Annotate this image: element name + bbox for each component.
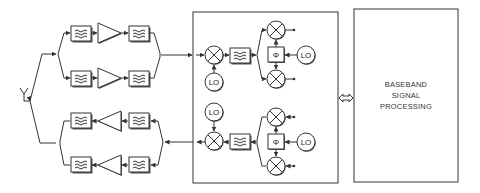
lo-label: LO bbox=[301, 51, 312, 60]
mixer-icon bbox=[267, 21, 286, 40]
amplifier-icon bbox=[98, 111, 122, 132]
bandpass-filter-icon bbox=[129, 113, 151, 130]
bandpass-filter-icon bbox=[129, 26, 151, 43]
mixer-icon bbox=[267, 70, 286, 89]
antenna-feed-lines bbox=[30, 54, 56, 143]
mixer-icon bbox=[267, 157, 286, 176]
baseband-label-line-2: SIGNAL bbox=[392, 91, 421, 100]
antenna-icon bbox=[20, 88, 30, 101]
bandpass-filter-icon bbox=[129, 157, 151, 174]
mixer-icon bbox=[205, 132, 224, 151]
bidirectional-bus-arrow bbox=[339, 94, 353, 102]
mixer-icon bbox=[267, 108, 286, 127]
phase-label: Φ bbox=[273, 51, 279, 60]
baseband-label-line-3: PROCESSING bbox=[380, 102, 432, 111]
tx-splitter bbox=[151, 121, 193, 165]
tx-combiner bbox=[60, 121, 70, 165]
rx-splitter bbox=[58, 33, 70, 78]
bandpass-filter-icon bbox=[71, 157, 93, 174]
tx-path-2 bbox=[71, 155, 151, 176]
lo-label: LO bbox=[209, 108, 220, 117]
amplifier-icon bbox=[98, 155, 122, 176]
tx-path-1 bbox=[71, 111, 151, 132]
bandpass-filter-icon bbox=[71, 26, 93, 43]
transceiver-diagram: LO Φ LO LO Φ bbox=[0, 0, 480, 193]
transceiver-block bbox=[193, 12, 338, 183]
rx-combiner bbox=[160, 53, 192, 57]
amplifier-icon bbox=[98, 23, 122, 44]
bandpass-filter-icon bbox=[71, 113, 93, 130]
lo-label: LO bbox=[301, 138, 312, 147]
bandpass-filter-icon bbox=[71, 71, 93, 88]
lo-label: LO bbox=[209, 78, 220, 87]
mixer-icon bbox=[205, 46, 224, 65]
phase-label: Φ bbox=[273, 138, 279, 147]
amplifier-icon bbox=[98, 68, 122, 89]
bandpass-filter-icon bbox=[129, 71, 151, 88]
bandpass-filter-icon bbox=[230, 48, 252, 65]
baseband-label-line-1: BASEBAND bbox=[385, 80, 428, 89]
rx-path-1 bbox=[71, 23, 160, 53]
rx-path-2 bbox=[71, 57, 160, 89]
bandpass-filter-icon bbox=[230, 134, 252, 151]
